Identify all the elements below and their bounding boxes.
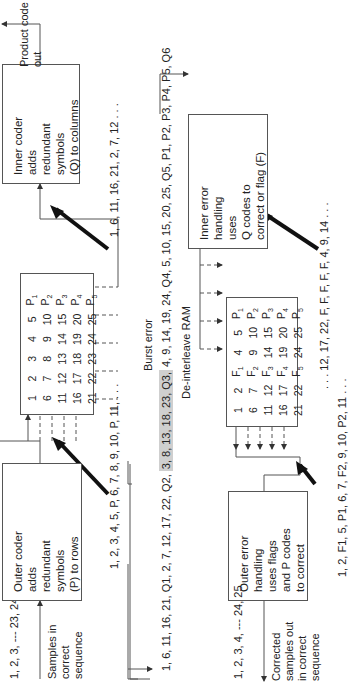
matrix-row: 2122F52425P5 [291, 304, 306, 420]
matrix-cell: 12 [261, 381, 276, 401]
matrix-cell: F2 [246, 362, 261, 380]
box-line: redundant [39, 472, 53, 592]
matrix-cell: F1 [231, 362, 246, 380]
encoder-input-label: Samples in correct sequence [46, 625, 85, 679]
matrix-cell: 18 [70, 349, 85, 369]
outer-coder-box: Outer coder adds redundant symbols (P) t… [2, 463, 82, 601]
matrix-cell: 17 [276, 381, 291, 401]
box-line: Q codes to [239, 123, 253, 240]
inner-error-handler-box: Inner error handling uses Q codes to cor… [188, 114, 268, 249]
matrix-cell: P3 [55, 291, 70, 310]
matrix-row: 678910P2 [40, 291, 55, 408]
matrix-cell: P1 [231, 304, 246, 323]
matrix-cell: 4 [231, 343, 246, 363]
label-line: sequence [72, 625, 85, 679]
matrix-cell: P3 [261, 304, 276, 323]
matrix-cell: 25 [85, 310, 100, 330]
box-line: Outer coder [11, 472, 25, 592]
matrix-cell: 5 [231, 323, 246, 343]
matrix-cell: 2 [231, 381, 246, 401]
matrix-cell: P5 [85, 291, 100, 310]
matrix-cell: P2 [246, 304, 261, 323]
encoder-matrix: 12345P1678910P21112131415P31617181920P42… [20, 273, 94, 415]
decoder-row-sequence: 1, 2, F1, 5, P1, 6, 7, F2, 9, 10, P2, 11… [336, 378, 348, 577]
matrix-cell: 11 [261, 400, 276, 420]
matrix-row: 1617181920P4 [70, 291, 85, 408]
matrix-row: 1617F41920P4 [276, 304, 291, 420]
label-line: correct [59, 625, 72, 679]
matrix-cell: 17 [70, 369, 85, 389]
matrix-cell: P2 [40, 291, 55, 310]
matrix-cell: 25 [291, 323, 306, 343]
box-line: Outer error [237, 500, 251, 592]
label-line: Samples in [46, 625, 59, 679]
decoder-output-label: Corrected samples out in correct sequenc… [270, 622, 322, 681]
label-line: Corrected [270, 622, 283, 681]
matrix-cell: 6 [246, 400, 261, 420]
decoder-matrix-table: 12F145P167F2910P21112F31415P31617F41920P… [231, 304, 306, 420]
matrix-row: 2122232425P5 [85, 291, 100, 408]
matrix-cell: 10 [246, 323, 261, 343]
matrix-cell: 22 [291, 381, 306, 401]
matrix-cell: 16 [70, 388, 85, 408]
matrix-cell: 2 [25, 369, 40, 389]
decoder-matrix: 12F145P167F2910P21112F31415P31617F41920P… [226, 297, 298, 427]
matrix-row: 1112131415P3 [55, 291, 70, 408]
matrix-cell: 10 [40, 310, 55, 330]
box-line: symbols [53, 73, 67, 175]
matrix-cell: 19 [70, 329, 85, 349]
matrix-cell: 7 [246, 381, 261, 401]
decoder-column-sequence: . . . 12, 17, 22, F, F, F, F, F, 4, 9, 1… [318, 203, 330, 389]
matrix-row: 1112F31415P3 [261, 304, 276, 420]
box-line: symbols [53, 472, 67, 592]
matrix-cell: 9 [246, 343, 261, 363]
label-line: Product code [18, 2, 31, 67]
matrix-cell: 19 [276, 343, 291, 363]
matrix-cell: 16 [276, 400, 291, 420]
matrix-cell: 6 [40, 388, 55, 408]
product-code-diagram: 1, 2, 3, --- 23, 24, 25 Samples in corre… [0, 0, 363, 689]
matrix-cell: 15 [55, 310, 70, 330]
matrix-cell: 8 [40, 349, 55, 369]
box-line: Inner coder [11, 73, 25, 175]
matrix-cell: F5 [291, 362, 306, 380]
label-line: samples out [283, 622, 296, 681]
box-line: uses [225, 123, 239, 240]
box-line: adds [25, 73, 39, 175]
box-line: to correct [293, 500, 307, 592]
burst-error-label: Burst error [142, 319, 155, 371]
matrix-cell: 5 [25, 310, 40, 330]
channel-sequence: 1, 6, 11, 16, 21, Q1, 2, 7, 12, 17, 22, … [160, 48, 172, 671]
matrix-cell: 20 [276, 323, 291, 343]
matrix-cell: 9 [40, 329, 55, 349]
matrix-cell: P4 [276, 304, 291, 323]
matrix-cell: 21 [291, 400, 306, 420]
matrix-cell: 7 [40, 369, 55, 389]
matrix-cell: 23 [85, 349, 100, 369]
box-line: Inner error [197, 123, 211, 240]
matrix-cell: 21 [85, 388, 100, 408]
product-code-out-label: Product code out [18, 2, 44, 67]
matrix-cell: 20 [70, 310, 85, 330]
matrix-cell: 13 [55, 349, 70, 369]
inner-coder-box: Inner coder adds redundant symbols (Q) t… [2, 64, 80, 184]
box-line: correct or flag (F) [253, 123, 267, 240]
matrix-cell: 11 [55, 388, 70, 408]
sequence-before-burst: 1, 6, 11, 16, 21, Q1, 2, 7, 12, 17, 22, … [160, 474, 172, 671]
box-line: (P) to rows [67, 472, 81, 592]
box-line: adds [25, 472, 39, 592]
label-line: sequence [309, 622, 322, 681]
matrix-cell: F4 [276, 362, 291, 380]
matrix-cell: 3 [25, 349, 40, 369]
matrix-cell: 24 [291, 343, 306, 363]
encoder-row-sequence: 1, 2, 3, 4, 5, P, 6, 7, 8, 9, 10, P, 11,… [108, 384, 120, 569]
sequence-after-burst: 4, 9, 14, 19, 24, Q4, 5, 10, 15, 20, 25,… [160, 48, 172, 367]
matrix-cell: 14 [261, 343, 276, 363]
matrix-cell: 14 [55, 329, 70, 349]
matrix-row: 67F2910P2 [246, 304, 261, 420]
matrix-cell: P5 [291, 304, 306, 323]
matrix-cell: P1 [25, 291, 40, 310]
matrix-cell: 12 [55, 369, 70, 389]
box-line: redundant [39, 73, 53, 175]
matrix-cell: 1 [25, 388, 40, 408]
